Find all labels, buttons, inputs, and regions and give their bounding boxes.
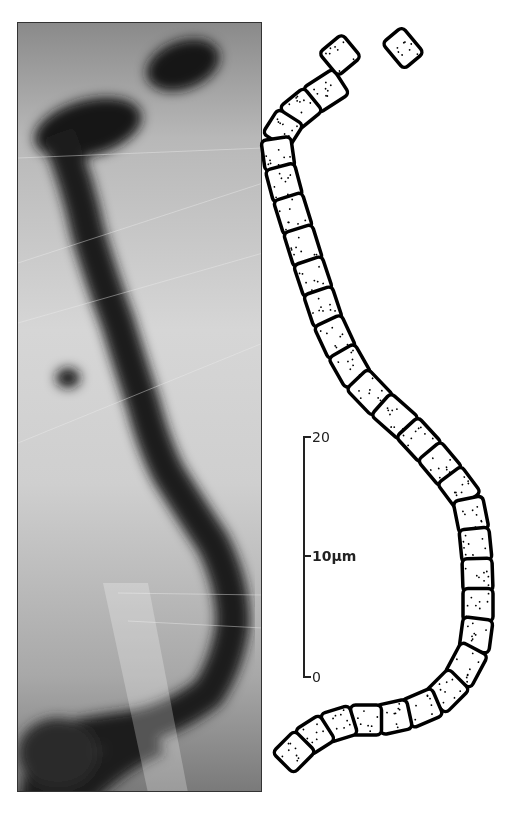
filament-cell bbox=[375, 699, 412, 735]
scale-tick-mid bbox=[303, 555, 311, 557]
filament-cell bbox=[382, 27, 424, 70]
filament-cell bbox=[273, 192, 313, 236]
filament-cell bbox=[279, 87, 322, 130]
filament-cell bbox=[459, 617, 493, 654]
filament-cell bbox=[314, 314, 356, 359]
filament-cell bbox=[437, 466, 481, 510]
filament-cell bbox=[319, 34, 361, 76]
filament-cell bbox=[396, 417, 442, 463]
micrograph-image bbox=[18, 23, 262, 792]
filament-cell bbox=[351, 705, 382, 735]
filament-cell bbox=[424, 668, 469, 713]
scale-label-mid: 10μm bbox=[312, 549, 356, 563]
filament-cell bbox=[272, 730, 315, 773]
filament-cell bbox=[453, 496, 489, 535]
scale-tick-top bbox=[303, 436, 311, 438]
scale-bar bbox=[303, 436, 305, 678]
filament-cell bbox=[401, 688, 444, 729]
filament-cell bbox=[293, 256, 332, 298]
filament-cell bbox=[303, 286, 342, 328]
filament-cell bbox=[463, 589, 493, 622]
scale-label-top: 20 bbox=[312, 430, 330, 444]
filament-cell bbox=[320, 705, 358, 743]
filament-cell bbox=[462, 558, 493, 592]
filament-cell bbox=[295, 715, 336, 756]
filament-cell bbox=[444, 642, 488, 689]
filament-cell bbox=[263, 109, 304, 150]
filament-cell bbox=[283, 224, 323, 268]
filament-cell bbox=[346, 369, 394, 417]
filament-cell bbox=[261, 136, 295, 171]
micrograph-panel bbox=[17, 22, 262, 792]
filament-cell bbox=[265, 163, 303, 204]
filament-cell bbox=[328, 343, 372, 388]
filament-cell bbox=[371, 393, 419, 440]
scale-tick-bottom bbox=[303, 676, 311, 678]
filament-cell bbox=[303, 69, 350, 114]
filament-cell bbox=[418, 441, 463, 487]
scale-label-bottom: 0 bbox=[312, 670, 321, 684]
filament-cell bbox=[459, 527, 492, 563]
